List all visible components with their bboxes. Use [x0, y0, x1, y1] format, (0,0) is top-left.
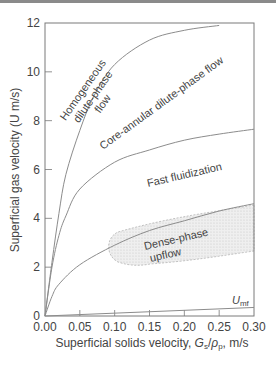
y-tick-label: 12: [27, 16, 41, 30]
x-tick-label: 0.10: [103, 320, 127, 334]
x-tick-label: 0.30: [242, 320, 266, 334]
y-tick-label: 4: [33, 211, 40, 225]
label-homogeneous: Homogeneous dilute-phase flow: [57, 57, 128, 137]
y-axis: 024681012: [27, 16, 52, 323]
x-tick-label: 0.05: [68, 320, 92, 334]
y-tick-label: 2: [33, 260, 40, 274]
y-tick-label: 6: [33, 163, 40, 177]
x-tick-label: 0.15: [138, 320, 162, 334]
x-tick-label: 0.25: [207, 320, 231, 334]
label-umf: Umf: [232, 294, 250, 308]
x-tick-label: 0.00: [33, 320, 57, 334]
x-axis: 0.000.050.100.150.200.250.30: [33, 310, 266, 334]
label-fast-fluidization: Fast fluidization: [146, 160, 223, 189]
x-tick-label: 0.20: [173, 320, 197, 334]
y-axis-label: Superficial gas velocity (U m/s): [8, 88, 22, 253]
x-axis-label: Superficial solids velocity, Gs/ρp, m/s: [55, 336, 248, 351]
y-tick-label: 10: [27, 65, 41, 79]
flow-regime-chart: 024681012 0.000.050.100.150.200.250.30 H…: [0, 0, 276, 365]
y-tick-label: 8: [33, 114, 40, 128]
plot-frame: [45, 23, 254, 316]
label-core-annular: Core-annular dilute-phase flow: [97, 54, 225, 152]
